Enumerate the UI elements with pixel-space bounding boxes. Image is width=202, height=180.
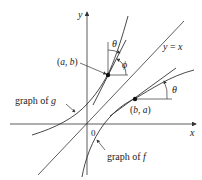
x-axis-label: x: [189, 127, 195, 138]
y-axis-label: y: [77, 9, 83, 20]
graph-f-label: graph of f: [107, 151, 147, 162]
diagram-svg: y x 0 y = x (a, b) (b, a) θ ϕ θ graph of…: [0, 0, 202, 180]
leader-graph-f: [97, 140, 105, 150]
origin-label: 0: [91, 128, 96, 138]
point-b-a-label: (b, a): [130, 105, 151, 116]
graph-g-curve: [32, 16, 128, 135]
theta-right-arc: [164, 81, 167, 99]
point-b-a: [133, 97, 137, 101]
point-a-b-label: (a, b): [57, 57, 78, 68]
leader-a-b: [80, 63, 106, 74]
theta-top-label: θ: [112, 38, 117, 49]
theta-top-arc: [108, 50, 120, 53]
phi-label: ϕ: [122, 59, 127, 70]
theta-right-label: θ: [172, 84, 177, 95]
leader-graph-g: [66, 104, 75, 112]
point-a-b: [106, 73, 110, 77]
identity-line-label: y = x: [162, 41, 183, 52]
graph-g-label: graph of g: [15, 95, 56, 106]
inverse-function-diagram: y x 0 y = x (a, b) (b, a) θ ϕ θ graph of…: [0, 0, 202, 180]
